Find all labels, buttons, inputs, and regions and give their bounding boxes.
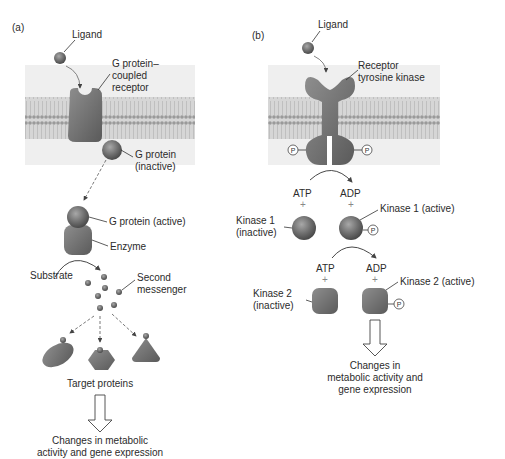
- svg-text:P: P: [371, 227, 376, 234]
- k2-active-label: Kinase 2 (active): [400, 276, 474, 288]
- svg-text:P: P: [365, 147, 370, 154]
- k1-active-label: Kinase 1 (active): [380, 203, 454, 215]
- kinase2-active-icon: [362, 288, 388, 314]
- kinase1-active-icon: [339, 216, 363, 240]
- k1-inactive-label-2: (inactive): [236, 227, 277, 239]
- target-protein-ellipse-icon: [38, 338, 77, 372]
- ligand-b-label: Ligand: [318, 19, 348, 31]
- result-a-line-1: Changes in metabolic: [30, 435, 170, 447]
- g-protein-inactive-icon: [102, 140, 122, 160]
- result-arrow-a-icon: [88, 395, 112, 432]
- panel-b-tag: (b): [252, 30, 264, 42]
- kinase1-inactive-icon: [292, 216, 316, 240]
- target-protein-hexagon-icon: [88, 350, 115, 370]
- gpcr-label-2: coupled: [112, 70, 147, 82]
- svg-text:P: P: [397, 301, 402, 308]
- panel-a-tag: (a): [12, 22, 24, 34]
- gpcr-label-3: receptor: [112, 82, 149, 94]
- target-proteins-label: Target proteins: [67, 378, 133, 390]
- enzyme-icon: [64, 225, 92, 255]
- gpcr-label-1: G protein–: [112, 58, 159, 70]
- result-arrow-b-icon: [363, 320, 387, 356]
- result-b-line-3: gene expression: [305, 384, 445, 396]
- svg-text:P: P: [291, 147, 296, 154]
- second-messenger-icons: [85, 274, 122, 311]
- k2-inactive-label-2: (inactive): [253, 300, 294, 312]
- substrate-label: Substrate: [30, 270, 73, 282]
- target-protein-triangle-icon: [132, 338, 160, 362]
- k2-inactive-label-1: Kinase 2: [253, 288, 292, 300]
- plus-sign: +: [348, 199, 354, 211]
- gpcr-icon: [68, 88, 102, 142]
- result-b-line-2: metabolic activity and: [305, 372, 445, 384]
- ligand-a-icon: [54, 52, 66, 64]
- ligand-a-label: Ligand: [72, 29, 102, 41]
- second-messenger-label-2: messenger: [137, 284, 186, 296]
- result-a-line-2: activity and gene expression: [30, 447, 170, 459]
- rtk-label-2: tyrosine kinase: [358, 72, 425, 84]
- kinase2-inactive-icon: [312, 288, 338, 314]
- plus-sign: +: [322, 274, 328, 286]
- g-active-label: G protein (active): [109, 216, 186, 228]
- enzyme-label: Enzyme: [110, 241, 146, 253]
- plus-sign: +: [300, 199, 306, 211]
- ligand-b-icon: [302, 42, 314, 54]
- g-protein-active-icon: [67, 206, 89, 228]
- result-b-line-1: Changes in: [305, 360, 445, 372]
- g-inactive-label-1: G protein: [135, 149, 176, 161]
- rtk-label-1: Receptor: [358, 60, 399, 72]
- k1-inactive-label-1: Kinase 1: [236, 215, 275, 227]
- plus-sign: +: [372, 274, 378, 286]
- second-messenger-label-1: Second: [137, 272, 171, 284]
- g-inactive-label-2: (inactive): [135, 161, 176, 173]
